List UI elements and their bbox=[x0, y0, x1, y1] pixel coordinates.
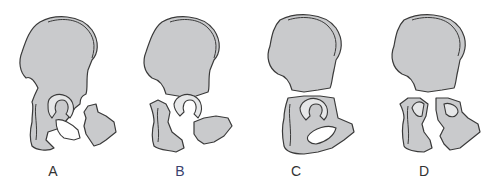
panel-label-b: B bbox=[165, 163, 195, 179]
pelvis-fracture-b-illustration bbox=[124, 0, 248, 185]
panel-label-a: A bbox=[38, 163, 68, 179]
pelvis-fracture-a-illustration bbox=[0, 0, 124, 185]
panel-label-d: D bbox=[409, 163, 439, 179]
panel-label-c: C bbox=[281, 163, 311, 179]
panel-d: D bbox=[370, 0, 494, 185]
panel-a: A bbox=[0, 0, 124, 185]
pelvis-fracture-c-illustration bbox=[248, 0, 372, 185]
panel-c: C bbox=[248, 0, 372, 185]
panel-b: B bbox=[124, 0, 248, 185]
pelvis-fracture-d-illustration bbox=[370, 0, 494, 185]
